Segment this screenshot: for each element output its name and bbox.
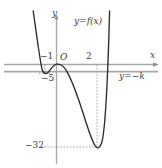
x-axis-label: x <box>150 51 155 60</box>
origin-label: O <box>60 53 67 62</box>
y-tick-label-neg32: −32 <box>25 141 44 150</box>
y-axis <box>55 14 59 164</box>
y-tick-label-neg5: −5 <box>41 74 54 83</box>
horizontal-line-label: y=−k <box>119 72 145 81</box>
x-axis <box>4 62 159 67</box>
function-label: y=f(x) <box>74 17 102 26</box>
graph-figure: y x y=f(x) y=−k O −1 2 −5 −32 <box>0 0 162 168</box>
x-tick-label-neg1: −1 <box>40 52 53 61</box>
x-axis-arrow-icon <box>153 62 158 67</box>
x-tick-label-2: 2 <box>86 52 92 61</box>
y-axis-label: y <box>52 9 57 18</box>
